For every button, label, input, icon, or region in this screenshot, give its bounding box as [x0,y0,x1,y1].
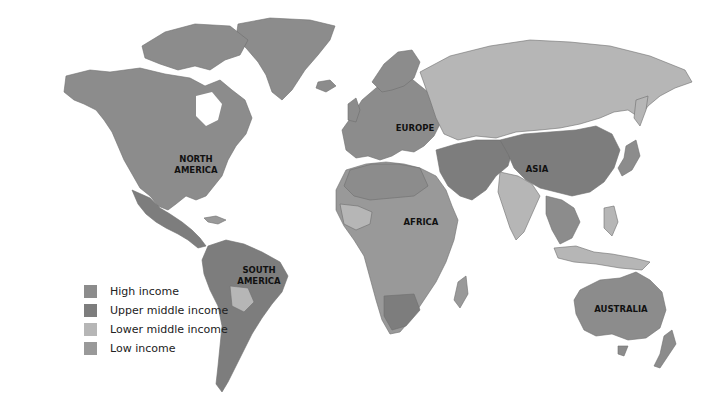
legend-item-high-income: High income [84,282,228,300]
swatch-upper-middle-income [84,304,97,317]
legend-label: High income [110,285,179,298]
japan [618,140,640,176]
swatch-lower-middle-income [84,323,97,336]
north-africa [344,164,428,200]
indonesia [554,246,650,270]
label-australia: AUSTRALIA [594,304,648,314]
southeast-asia [546,196,580,244]
label-north-america-line2: AMERICA [174,165,218,175]
swatch-high-income [84,285,97,298]
madagascar [454,276,468,308]
legend: High income Upper middle income Lower mi… [84,282,228,358]
label-europe: EUROPE [396,123,435,133]
southern-africa [384,294,420,330]
new-zealand [654,330,676,368]
legend-item-low-income: Low income [84,339,228,357]
legend-label: Lower middle income [110,323,228,336]
legend-label: Upper middle income [110,304,228,317]
legend-item-lower-middle-income: Lower middle income [84,320,228,338]
north-america [64,68,252,210]
label-asia: ASIA [526,164,549,174]
tasmania [618,346,628,356]
caribbean [204,216,226,224]
label-north-america-line1: NORTH [179,154,212,164]
russia [420,40,692,140]
label-south-america-line2: AMERICA [237,276,281,286]
kamchatka [634,96,648,126]
arctic-islands [142,24,248,70]
legend-item-upper-middle-income: Upper middle income [84,301,228,319]
label-africa: AFRICA [404,217,439,227]
legend-label: Low income [110,342,175,355]
philippines [604,206,618,236]
swatch-low-income [84,342,97,355]
label-south-america-line1: SOUTH [242,265,275,275]
iceland [316,80,336,92]
